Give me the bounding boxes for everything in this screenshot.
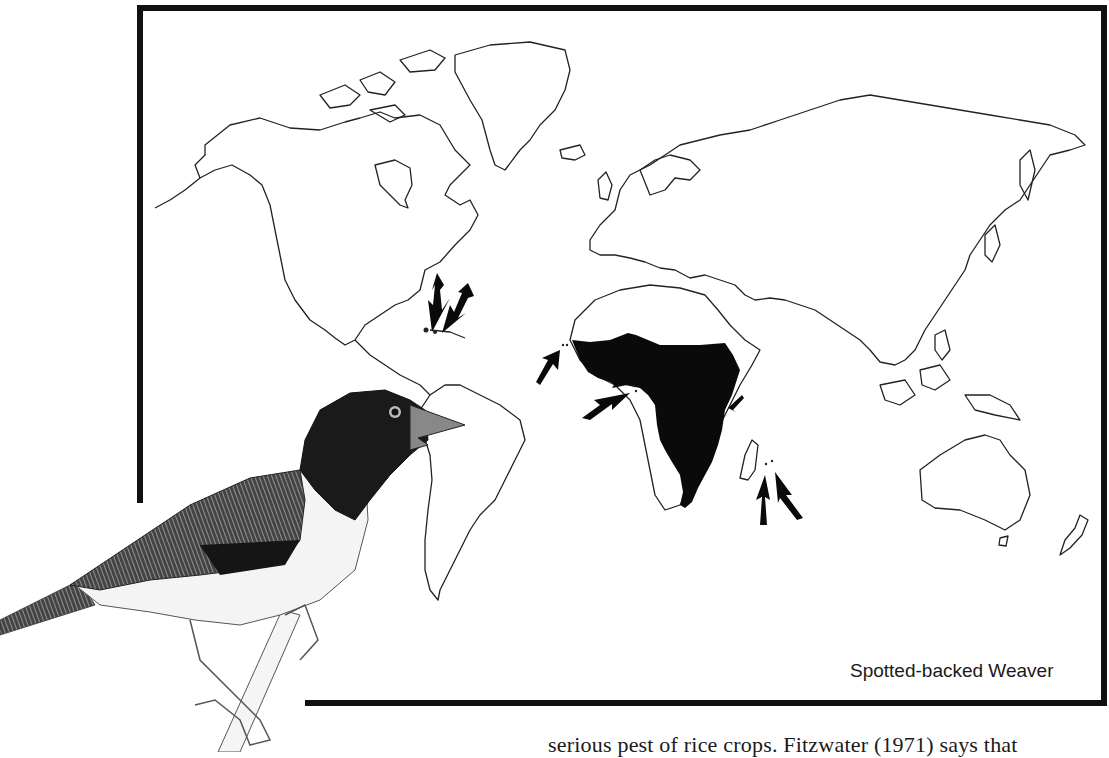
introduction-arrows	[428, 273, 803, 525]
map-frame-right	[1101, 5, 1107, 706]
british-isles	[598, 172, 612, 200]
kamchatka	[1020, 150, 1035, 200]
arrow-icon	[582, 393, 630, 420]
body-text-line: serious pest of rice crops. Fitzwater (1…	[548, 732, 1018, 758]
bird-beak	[410, 405, 465, 450]
arrow-icon	[536, 350, 560, 385]
weaver-bird-illustration	[0, 380, 480, 752]
figure-caption: Spotted-backed Weaver	[850, 660, 1054, 682]
arrow-icon	[775, 472, 803, 520]
arrow-icon	[756, 475, 770, 525]
scandinavia	[640, 155, 700, 195]
australia-outline	[920, 435, 1030, 530]
japan	[985, 225, 1000, 262]
hudson-bay	[375, 160, 412, 208]
eurasia-outline	[590, 95, 1085, 365]
native-range-fill	[572, 333, 740, 508]
branch	[218, 610, 300, 752]
arrow-icon	[442, 283, 474, 333]
new-zealand-outline	[1060, 515, 1088, 555]
greenland-outline	[455, 42, 570, 170]
alaska-tail	[155, 178, 200, 208]
madagascar-outline	[740, 440, 758, 480]
